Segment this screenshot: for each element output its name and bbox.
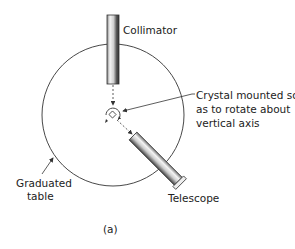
figure-caption: (a)	[103, 223, 118, 235]
beam-out	[117, 120, 132, 134]
table-label-line2: table	[27, 190, 54, 202]
crystal-label-line2: as to rotate about	[196, 103, 290, 115]
crystal-label-line1: Crystal mounted so	[196, 89, 295, 101]
collimator-label: Collimator	[123, 24, 177, 36]
table-leader	[42, 158, 53, 174]
telescope-tube	[128, 131, 187, 190]
table-label-line1: Graduated	[16, 177, 72, 189]
spectrometer-diagram: Collimator Crystal mounted so as to rota…	[0, 0, 295, 249]
crystal-icon	[105, 108, 121, 123]
crystal-label-line3: vertical axis	[196, 117, 260, 129]
telescope-label: Telescope	[168, 192, 219, 204]
crystal-leader	[123, 94, 192, 111]
collimator-tube	[107, 15, 119, 84]
